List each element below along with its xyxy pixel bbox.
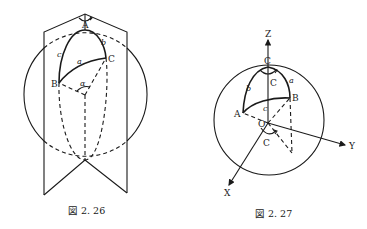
label-B: B (292, 93, 299, 103)
label-B: B (51, 79, 58, 89)
y-axis (268, 123, 345, 145)
label-A: A (233, 109, 241, 119)
label-A: A (81, 20, 89, 30)
caption-2-27: 図 2. 27 (255, 208, 292, 219)
label-X: X (224, 188, 231, 198)
great-circle-ellipse (59, 30, 107, 160)
label-angle-C-top: C (270, 78, 277, 88)
label-Y: Y (348, 141, 356, 151)
label-C: C (108, 54, 115, 64)
figure-2-26: A B C a b c α 図 2. 26 (24, 14, 147, 216)
label-arc-c: c (263, 104, 268, 113)
figure-2-27: Z Y X O C A B C C a b c 図 2. 27 (214, 29, 356, 219)
radii (59, 58, 106, 160)
label-arc-a: a (289, 76, 294, 85)
label-Z: Z (265, 29, 271, 39)
diagram-canvas: A B C a b c α 図 2. 26 (0, 0, 367, 229)
label-alpha: α (80, 79, 86, 88)
label-arc-c: c (57, 50, 62, 59)
x-axis (229, 123, 268, 185)
sphere (214, 65, 324, 175)
label-arc-b: b (101, 38, 106, 47)
label-arc-b: b (246, 84, 251, 93)
label-C-top: C (264, 56, 271, 66)
label-arc-a: a (77, 57, 82, 66)
label-O: O (258, 119, 265, 129)
label-angle-C-base: C (263, 138, 270, 148)
caption-2-26: 図 2. 26 (68, 205, 105, 216)
